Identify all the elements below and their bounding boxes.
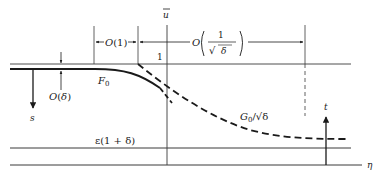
- svg-text:δ: δ: [221, 46, 226, 56]
- o-delta-label: O(δ): [49, 91, 71, 102]
- o1-label: O(1): [105, 37, 127, 48]
- eta-axis-label: η: [367, 160, 373, 170]
- epsilon-label: ε(1 + δ): [95, 135, 135, 146]
- t-label: t: [324, 102, 328, 112]
- svg-text:1: 1: [218, 30, 224, 40]
- g0-curve: [138, 64, 346, 139]
- svg-text:O: O: [192, 37, 200, 48]
- g0-label: G0/√δ: [240, 111, 268, 124]
- s-label: s: [30, 113, 35, 123]
- f0-dashed-continuation: [160, 88, 172, 103]
- asymptotic-layer-diagram: η u 1 O(1) O 1 √ δ F0 G0/√δ O(δ) s t ε(1…: [0, 0, 384, 177]
- svg-text:√: √: [209, 45, 216, 56]
- level-one-label: 1: [157, 52, 163, 62]
- u-bar-label: u: [163, 10, 169, 20]
- o-inv-sqrt-delta-label: O 1 √ δ: [192, 30, 243, 56]
- f0-label: F0: [97, 75, 109, 88]
